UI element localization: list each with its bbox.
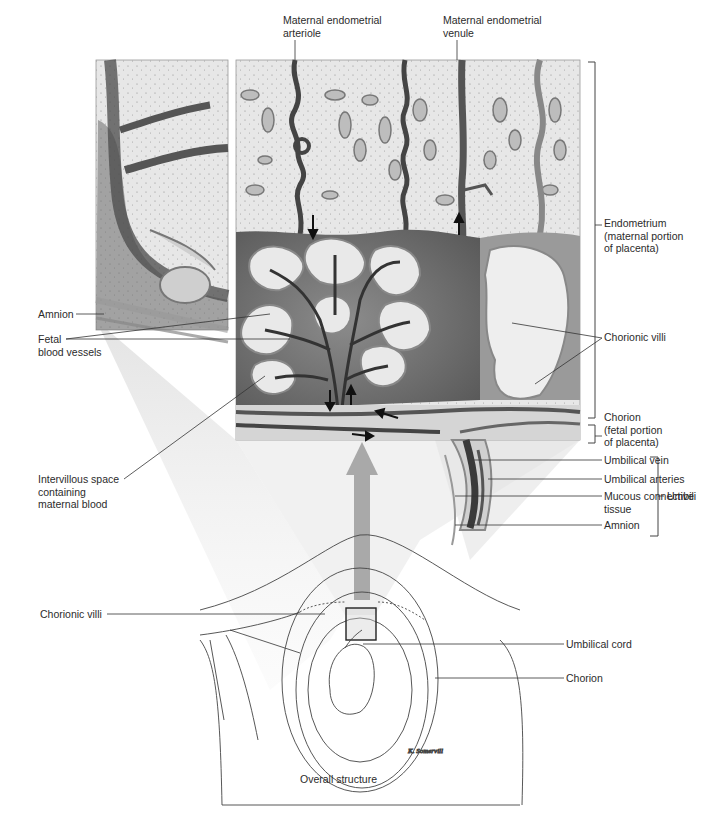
label-intervillous-space: Intervillous space containing maternal b… (38, 473, 119, 511)
label-maternal-endometrial-arteriole: Maternal endometrial arteriole (283, 14, 382, 39)
label-umbilical-cord: Umbilical cord (566, 638, 632, 651)
figure-caption: Overall structure (300, 773, 377, 786)
label-umbilical-cord-group: Umbili (667, 490, 696, 503)
label-chorion-lower: Chorion (566, 672, 603, 685)
svg-text:K. Somervill: K. Somervill (407, 747, 443, 755)
label-umbilical-arteries: Umbilical arteries (604, 473, 685, 486)
label-chorionic-villi-lower: Chorionic villi (40, 608, 102, 621)
label-endometrium: Endometrium (maternal portion of placent… (604, 217, 683, 255)
label-amnion-right: Amnion (604, 519, 640, 532)
placenta-diagram: K. Somervill (0, 0, 722, 814)
label-chorionic-villi-right: Chorionic villi (604, 331, 666, 344)
label-maternal-endometrial-venule: Maternal endometrial venule (443, 14, 542, 39)
label-chorion-fetal-portion: Chorion (fetal portion of placenta) (604, 411, 662, 449)
left-inset-section (96, 60, 228, 342)
label-fetal-blood-vessels: Fetal blood vessels (38, 333, 102, 358)
main-inset-section (236, 60, 580, 440)
label-umbilical-vein: Umbilical vein (604, 454, 669, 467)
label-amnion-left: Amnion (38, 308, 74, 321)
